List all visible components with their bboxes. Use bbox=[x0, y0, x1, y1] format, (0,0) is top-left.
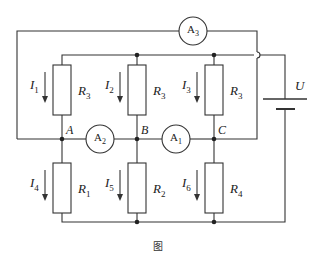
junction-dot bbox=[212, 53, 217, 58]
wire-upper-bus-left bbox=[62, 55, 254, 65]
resistor-lower-left-label: R1 bbox=[78, 182, 90, 199]
current-arrow-icon bbox=[194, 72, 200, 103]
ammeter-a1-label: A1 bbox=[170, 132, 182, 146]
current-arrow-icon bbox=[117, 170, 123, 201]
node-label-b: B bbox=[141, 124, 148, 136]
resistor-upper-mid-label: R3 bbox=[153, 84, 165, 101]
ammeter-letter: A bbox=[170, 131, 178, 143]
ammeter-letter: A bbox=[187, 23, 195, 35]
current-i3-label: I3 bbox=[182, 78, 191, 95]
source-voltage-label: U bbox=[295, 79, 304, 92]
node-label-c: C bbox=[218, 124, 226, 136]
wire-outer-right-top bbox=[207, 31, 257, 52]
current-i1-label: I1 bbox=[30, 78, 39, 95]
current-arrow-icon bbox=[42, 72, 48, 103]
resistor-lower-mid-label: R2 bbox=[153, 182, 165, 199]
resistor-upper-left bbox=[53, 65, 71, 115]
current-i6-label: I6 bbox=[182, 176, 191, 193]
circuit-wiring bbox=[0, 0, 319, 259]
resistor-lower-right-label: R4 bbox=[230, 182, 242, 199]
current-i2-label: I2 bbox=[105, 78, 114, 95]
ammeter-index: 3 bbox=[195, 29, 199, 38]
ammeter-a2-label: A2 bbox=[94, 132, 106, 146]
ammeter-letter: A bbox=[94, 131, 102, 143]
wire-upper-bus-right bbox=[260, 55, 285, 99]
node-label-a: A bbox=[66, 124, 73, 136]
resistor-upper-left-label: R3 bbox=[78, 84, 90, 101]
current-arrow-icon bbox=[194, 170, 200, 201]
junction-dot bbox=[135, 220, 140, 225]
circuit-diagram: A3 A2 A1 A B C U R3 R3 R3 R1 R2 R4 I1 I2… bbox=[0, 0, 319, 259]
ammeter-index: 2 bbox=[102, 137, 106, 146]
junction-dot bbox=[212, 220, 217, 225]
resistor-lower-mid bbox=[128, 163, 146, 213]
ammeter-index: 1 bbox=[178, 137, 182, 146]
resistor-lower-left bbox=[53, 163, 71, 213]
current-i5-label: I5 bbox=[105, 176, 114, 193]
resistor-upper-right bbox=[205, 65, 223, 115]
current-arrow-icon bbox=[117, 72, 123, 103]
junction-dot-b bbox=[135, 137, 140, 142]
resistor-upper-right-label: R3 bbox=[230, 84, 242, 101]
current-i4-label: I4 bbox=[30, 176, 39, 193]
junction-dot-c bbox=[212, 137, 217, 142]
figure-caption: 图 bbox=[153, 238, 163, 253]
resistor-lower-right bbox=[205, 163, 223, 213]
junction-dot bbox=[135, 53, 140, 58]
wire-crossover-hop bbox=[257, 52, 260, 58]
ammeter-a3-label: A3 bbox=[187, 24, 199, 38]
current-arrow-icon bbox=[42, 170, 48, 201]
junction-dot-a bbox=[60, 137, 65, 142]
resistor-upper-mid bbox=[128, 65, 146, 115]
